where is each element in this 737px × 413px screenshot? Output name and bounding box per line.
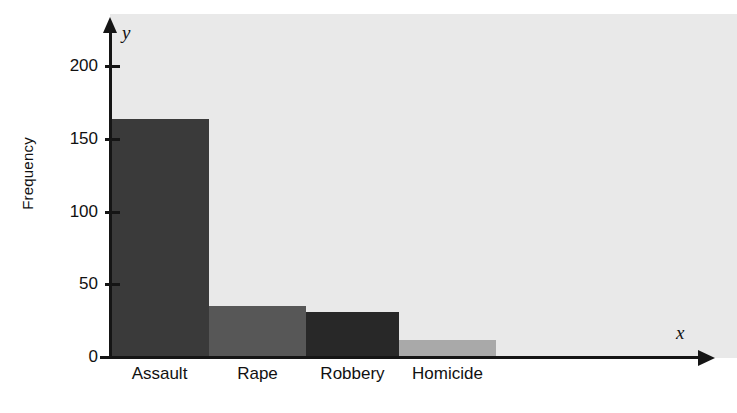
x-category-label-rape: Rape (209, 364, 306, 384)
bar-robbery (306, 312, 399, 357)
y-tick-mark (105, 65, 120, 68)
bar-chart: y 050100150200 Frequency x AssaultRapeRo… (0, 0, 737, 413)
y-tick-mark (105, 138, 120, 141)
x-category-label-robbery: Robbery (306, 364, 399, 384)
bar-assault (110, 119, 209, 357)
y-tick-label: 0 (46, 347, 98, 367)
x-axis-line (110, 356, 700, 359)
bar-rape (209, 306, 306, 357)
y-tick-mark (100, 356, 110, 359)
x-axis-letter: x (676, 322, 684, 344)
x-category-label-homicide: Homicide (399, 364, 496, 384)
y-tick-label: 200 (46, 56, 98, 76)
y-axis-title: Frequency (19, 114, 36, 234)
y-tick-label: 150 (46, 129, 98, 149)
y-tick-mark (105, 283, 120, 286)
y-axis-arrow-icon (103, 17, 117, 33)
x-category-label-assault: Assault (110, 364, 209, 384)
y-tick-mark (105, 211, 120, 214)
y-tick-label: 50 (46, 274, 98, 294)
x-axis-arrow-icon (698, 350, 715, 366)
y-axis-letter: y (122, 22, 130, 44)
bar-homicide (399, 340, 496, 357)
y-tick-label: 100 (46, 202, 98, 222)
y-axis-line (109, 30, 112, 359)
